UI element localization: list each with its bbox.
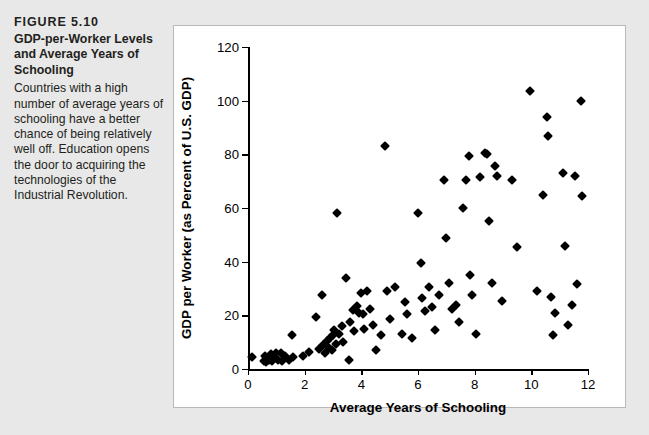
x-tick-label: 12 — [581, 377, 596, 392]
y-tick-label: 60 — [224, 201, 239, 216]
y-tick-label: 20 — [224, 308, 239, 323]
x-tick-mark — [361, 369, 362, 375]
scatter-point — [341, 273, 351, 283]
scatter-point — [332, 208, 342, 218]
scatter-point — [417, 293, 427, 303]
y-tick-mark — [242, 47, 248, 48]
plot-area: 020406080100120 024681012 Average Years … — [248, 47, 588, 369]
y-axis-line — [248, 47, 250, 369]
x-tick-label: 4 — [358, 377, 365, 392]
y-tick-mark — [242, 315, 248, 316]
scatter-point — [407, 333, 417, 343]
scatter-point — [439, 175, 449, 185]
scatter-point — [546, 292, 556, 302]
x-tick-mark — [531, 369, 532, 375]
scatter-point — [484, 216, 494, 226]
x-tick-label: 2 — [301, 377, 308, 392]
x-tick-label: 6 — [414, 377, 421, 392]
scatter-point — [338, 337, 348, 347]
scatter-point — [570, 171, 580, 181]
scatter-point — [567, 300, 577, 310]
scatter-point — [492, 171, 502, 181]
scatter-point — [577, 191, 587, 201]
scatter-point — [349, 326, 359, 336]
y-tick-mark — [242, 154, 248, 155]
scatter-point — [490, 161, 500, 171]
scatter-point — [397, 329, 407, 339]
y-tick-label: 40 — [224, 254, 239, 269]
scatter-point — [344, 355, 354, 365]
scatter-point — [444, 278, 454, 288]
scatter-point — [512, 242, 522, 252]
scatter-point — [550, 308, 560, 318]
scatter-point — [380, 141, 390, 151]
scatter-point — [458, 203, 468, 213]
y-tick-mark — [242, 208, 248, 209]
x-tick-label: 10 — [524, 377, 539, 392]
y-tick-label: 100 — [217, 93, 239, 108]
x-tick-mark — [588, 369, 589, 375]
scatter-point — [497, 296, 507, 306]
x-tick-mark — [475, 369, 476, 375]
x-tick-mark — [305, 369, 306, 375]
scatter-point — [461, 175, 471, 185]
x-tick-mark — [248, 369, 249, 375]
figure-caption-column: FIGURE 5.10 GDP-per-Worker Levels and Av… — [14, 14, 164, 204]
scatter-point — [385, 314, 395, 324]
scatter-point — [542, 112, 552, 122]
scatter-point — [525, 86, 535, 96]
scatter-point — [465, 270, 475, 280]
x-tick-label: 8 — [471, 377, 478, 392]
scatter-point — [287, 331, 297, 341]
y-tick-label: 80 — [224, 147, 239, 162]
figure-title: GDP-per-Worker Levels and Average Years … — [14, 32, 164, 78]
plot-panel: 020406080100120 024681012 Average Years … — [173, 25, 626, 408]
scatter-point — [475, 172, 485, 182]
scatter-point — [532, 286, 542, 296]
y-tick-label: 0 — [232, 362, 239, 377]
scatter-point — [413, 208, 423, 218]
scatter-point — [558, 168, 568, 178]
scatter-point — [576, 96, 586, 106]
scatter-point — [467, 290, 477, 300]
scatter-point — [371, 345, 381, 355]
scatter-point — [548, 331, 558, 341]
scatter-point — [441, 233, 451, 243]
scatter-point — [402, 309, 412, 319]
x-tick-mark — [418, 369, 419, 375]
scatter-point — [563, 320, 573, 330]
scatter-point — [376, 331, 386, 341]
y-axis-title: GDP per Worker (as Percent of U.S. GDP) — [179, 77, 194, 339]
figure-number: FIGURE 5.10 — [14, 14, 164, 30]
figure-description: Countries with a high number of average … — [14, 81, 164, 203]
scatter-point — [430, 325, 440, 335]
scatter-point — [560, 241, 570, 251]
x-tick-label: 0 — [244, 377, 251, 392]
scatter-point — [507, 175, 517, 185]
scatter-point — [416, 258, 426, 268]
figure-container: FIGURE 5.10 GDP-per-Worker Levels and Av… — [0, 0, 649, 435]
scatter-point — [400, 297, 410, 307]
scatter-point — [572, 280, 582, 290]
scatter-point — [487, 278, 497, 288]
scatter-point — [538, 190, 548, 200]
scatter-point — [454, 317, 464, 327]
y-tick-label: 120 — [217, 40, 239, 55]
scatter-point — [471, 329, 481, 339]
y-tick-mark — [242, 262, 248, 263]
y-tick-mark — [242, 101, 248, 102]
x-axis-title: Average Years of Schooling — [248, 400, 588, 415]
scatter-point — [368, 320, 378, 330]
scatter-point — [311, 312, 321, 322]
scatter-point — [543, 131, 553, 141]
scatter-point — [317, 290, 327, 300]
scatter-point — [424, 282, 434, 292]
scatter-point — [464, 151, 474, 161]
scatter-point — [434, 290, 444, 300]
